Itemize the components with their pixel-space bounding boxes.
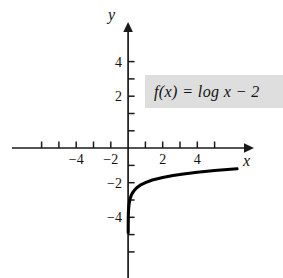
- x-tick-label-2: 2: [157, 152, 169, 168]
- x-tick-label--4: −4: [66, 152, 86, 168]
- plot-area: [0, 0, 283, 278]
- y-tick-label-2: 2: [108, 89, 122, 105]
- y-axis: [123, 22, 134, 278]
- y-axis-label: y: [108, 6, 115, 24]
- y-tick-label-4: 4: [108, 55, 122, 71]
- equation-annotation-box: f(x) = log x − 2: [145, 75, 283, 108]
- y-tick-label--2: −2: [100, 176, 122, 192]
- x-tick-label--2: −2: [101, 152, 121, 168]
- equation-annotation-text: f(x) = log x − 2: [154, 83, 260, 101]
- x-axis: [12, 142, 254, 153]
- y-tick-label--4: −4: [100, 210, 122, 226]
- y-axis-arrowhead: [123, 22, 133, 32]
- x-tick-label-4: 4: [191, 152, 203, 168]
- function-curve: [128, 169, 237, 233]
- logarithmic-function-graph: −4 −2 2 4 4 2 −2 −4 y x f(x) = log x − 2: [0, 0, 283, 278]
- x-axis-label: x: [243, 152, 250, 170]
